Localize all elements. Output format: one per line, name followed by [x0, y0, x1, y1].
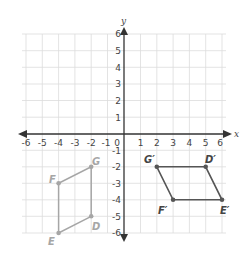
label-g-prime: G′	[144, 154, 155, 165]
point-e	[56, 231, 61, 236]
x-axis-left-arrow-icon	[18, 130, 27, 138]
svg-text:-4: -4	[54, 138, 63, 148]
svg-text:-1: -1	[112, 146, 121, 156]
svg-text:-3: -3	[112, 179, 121, 189]
svg-text:-6: -6	[112, 228, 121, 238]
label-g: G	[92, 156, 100, 167]
point-d-prime	[203, 165, 208, 170]
y-axis-down-arrow-icon	[120, 234, 128, 242]
svg-text:-3: -3	[70, 138, 79, 148]
label-f: F	[49, 174, 56, 185]
svg-text:-2: -2	[112, 162, 121, 172]
svg-text:4: 4	[187, 138, 193, 148]
y-axis-label: y	[120, 16, 127, 26]
label-f-prime: F′	[158, 205, 168, 216]
svg-text:-5: -5	[38, 138, 47, 148]
label-d: D	[92, 221, 100, 232]
x-axis-right-arrow-icon	[223, 130, 232, 138]
svg-text:1: 1	[115, 113, 121, 123]
svg-text:3: 3	[170, 138, 176, 148]
label-e-prime: E′	[220, 205, 230, 216]
svg-text:4: 4	[115, 63, 121, 73]
svg-text:-6: -6	[22, 138, 31, 148]
svg-text:5: 5	[115, 46, 121, 56]
point-g-prime	[155, 165, 160, 170]
point-d	[89, 214, 94, 219]
point-f	[56, 181, 61, 186]
svg-text:5: 5	[203, 138, 209, 148]
svg-text:-5: -5	[112, 212, 121, 222]
y-axis-up-arrow-icon	[120, 27, 128, 35]
label-d-prime: D′	[205, 154, 216, 165]
svg-text:-4: -4	[112, 195, 121, 205]
svg-text:6: 6	[217, 138, 223, 148]
point-f-prime	[171, 198, 176, 203]
svg-text:2: 2	[154, 138, 160, 148]
x-axis	[18, 130, 232, 138]
svg-text:-1: -1	[102, 138, 111, 148]
svg-text:2: 2	[115, 96, 121, 106]
svg-text:3: 3	[115, 79, 121, 89]
point-e-prime	[220, 198, 225, 203]
x-axis-label: x	[234, 129, 239, 139]
x-tick-labels: -6 -5 -4 -3 -2 -1 0 1 2 3 4 5 6	[22, 138, 224, 148]
svg-text:6: 6	[115, 29, 121, 39]
coordinate-plane: x y -6 -5 -4 -3 -2 -1 0 1 2 3 4 5 6 6 5 …	[0, 0, 251, 260]
svg-text:-2: -2	[87, 138, 96, 148]
svg-text:1: 1	[138, 138, 144, 148]
label-e: E	[48, 236, 55, 247]
